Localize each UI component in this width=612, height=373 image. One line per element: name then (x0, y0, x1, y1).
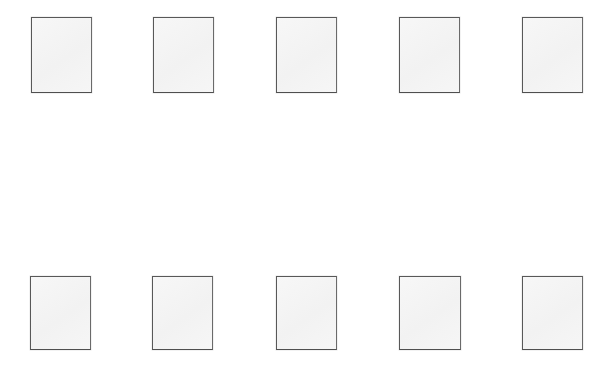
panel-content-area (277, 277, 336, 349)
panel-row-2 (0, 0, 612, 80)
panel-content-area (400, 277, 460, 349)
placeholder-grid-canvas (0, 0, 612, 373)
panel-content-area (31, 277, 90, 349)
placeholder-panel[interactable] (30, 276, 91, 350)
placeholder-panel[interactable] (522, 276, 583, 350)
placeholder-panel[interactable] (152, 276, 213, 350)
placeholder-panel[interactable] (276, 276, 337, 350)
panel-content-area (523, 277, 582, 349)
panel-content-area (153, 277, 212, 349)
placeholder-panel[interactable] (399, 276, 461, 350)
